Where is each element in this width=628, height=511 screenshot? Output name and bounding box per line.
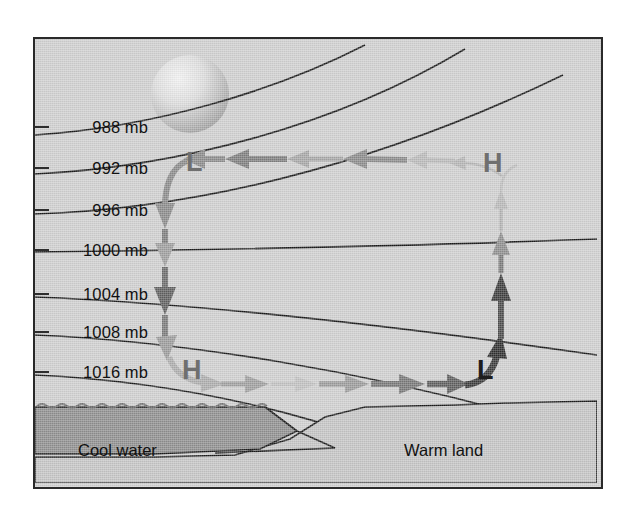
ascend-arrow-3	[494, 189, 508, 231]
descend-arrow-2	[154, 267, 176, 315]
ascend-arrow-1	[491, 273, 511, 339]
isobar-992	[35, 49, 465, 174]
surface-arrow-1	[221, 375, 269, 393]
diagram-canvas	[35, 39, 597, 483]
warm-land-label: Warm land	[404, 441, 483, 460]
upper-arrow-4	[225, 149, 287, 169]
low-pressure-upper-left: L	[186, 149, 203, 176]
surface-arrow-2	[271, 376, 317, 392]
upper-arrow-1	[407, 151, 455, 169]
cool-water-body	[35, 407, 297, 454]
ascend-turn-to-high	[501, 165, 517, 191]
isobar-996	[35, 75, 563, 214]
surface-arrow-4	[371, 374, 425, 394]
upper-level-flow-arrows	[155, 149, 502, 229]
ascending-branch-arrows	[491, 165, 517, 339]
upper-arrow-3	[287, 150, 343, 168]
low-pressure-lower-right: L	[477, 357, 494, 384]
upper-left-turn-head	[155, 203, 175, 229]
surface-flow-arrows	[221, 333, 507, 394]
cool-water-label: Cool water	[78, 441, 157, 460]
water-surface-waves	[37, 404, 267, 408]
ascend-arrow-2	[492, 231, 510, 273]
high-pressure-lower-left: H	[182, 357, 202, 384]
descend-arrow-3	[156, 315, 177, 361]
sun-icon	[151, 55, 229, 133]
surface-arrow-5	[427, 374, 469, 394]
sea-breeze-diagram: 988 mb 992 mb 996 mb 1000 mb 1004 mb 100…	[0, 0, 628, 511]
axis-tick-marks	[33, 37, 53, 485]
descend-arrow-1	[155, 229, 175, 267]
figure-frame	[33, 37, 603, 489]
high-pressure-upper-right: H	[483, 150, 503, 177]
